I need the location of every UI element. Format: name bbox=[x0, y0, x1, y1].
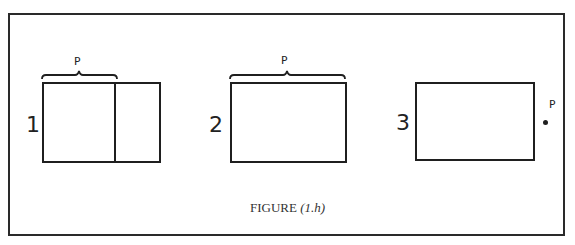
caption-ref: (1.h) bbox=[300, 200, 325, 215]
panel-3-p-label: P bbox=[549, 99, 556, 110]
panel-2-number: 2 bbox=[209, 114, 223, 136]
panel-2-p-label: P bbox=[281, 55, 288, 66]
panel-3-number: 3 bbox=[396, 112, 410, 134]
panel-1-number: 1 bbox=[26, 114, 40, 136]
panel-1-divider bbox=[114, 82, 116, 163]
panel-2-brace-icon bbox=[229, 70, 347, 80]
panel-1-p-label: P bbox=[74, 56, 81, 67]
panel-1-brace-icon bbox=[41, 70, 118, 80]
figure-caption: FIGURE (1.h) bbox=[0, 200, 575, 216]
caption-label: FIGURE bbox=[250, 200, 297, 215]
panel-1-rectangle bbox=[42, 82, 161, 163]
panel-3-rectangle bbox=[415, 82, 535, 161]
panel-2-rectangle bbox=[230, 82, 347, 163]
panel-3-point-p bbox=[543, 120, 548, 125]
